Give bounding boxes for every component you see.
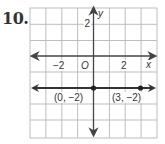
- point-label-3-neg2: (3, −2): [112, 92, 141, 103]
- point-label-0-neg2: (0, −2): [54, 92, 83, 103]
- point-0-neg2: [91, 85, 96, 90]
- point-3-neg2: [138, 85, 143, 90]
- coordinate-graph: 2 y −2 O 2 x (0, −2) (3, −2): [0, 0, 165, 144]
- x-tick-label-neg2: −2: [53, 60, 65, 71]
- x-tick-label-2: 2: [121, 60, 127, 71]
- origin-label: O: [81, 60, 89, 71]
- y-tick-label-2: 2: [85, 18, 91, 29]
- y-axis-label: y: [97, 8, 104, 19]
- x-axis-label: x: [145, 59, 152, 70]
